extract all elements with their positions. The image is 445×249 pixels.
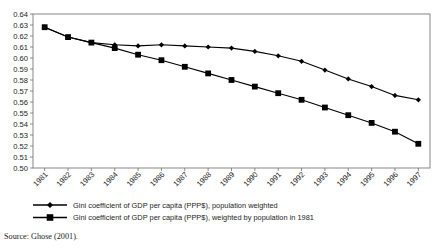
- y-axis-tick-label: 0.56: [13, 98, 28, 107]
- data-point-marker-square: [205, 71, 211, 77]
- x-axis-tick-label: 1985: [125, 170, 143, 188]
- x-axis-tick-label: 1992: [288, 170, 306, 188]
- x-axis-tick-label: 1989: [218, 170, 236, 188]
- x-axis-tick-label: 1995: [358, 170, 376, 188]
- data-point-marker-square: [42, 24, 48, 30]
- y-axis-tick-label: 0.53: [13, 131, 28, 140]
- x-axis-tick-label: 1986: [148, 170, 166, 188]
- data-point-marker-square: [159, 57, 165, 63]
- data-point-marker-square: [322, 105, 328, 111]
- x-axis-tick-label: 1987: [171, 170, 189, 188]
- x-axis-tick-label: 1990: [241, 170, 259, 188]
- data-point-marker-square: [275, 90, 281, 96]
- y-axis-tick-label: 0.64: [13, 10, 28, 19]
- x-axis-tick-label: 1991: [265, 170, 283, 188]
- data-point-marker-square: [252, 84, 258, 90]
- data-point-marker-square: [345, 112, 351, 118]
- y-axis-tick-label: 0.60: [13, 54, 28, 63]
- data-point-marker-square: [88, 40, 94, 46]
- data-point-marker-square: [182, 64, 188, 70]
- data-point-marker-square: [135, 52, 141, 58]
- data-point-marker-square: [112, 45, 118, 51]
- y-axis-tick-label: 0.50: [13, 164, 28, 173]
- legend-marker-square: [47, 214, 54, 221]
- y-axis-tick-label: 0.52: [13, 142, 28, 151]
- x-axis-tick-label: 1997: [405, 170, 423, 188]
- legend-label: Gini coefficient of GDP per capita (PPP$…: [73, 213, 314, 222]
- data-point-marker-square: [369, 120, 375, 126]
- legend-marker-diamond: [47, 202, 53, 208]
- legend-item-2: Gini coefficient of GDP per capita (PPP$…: [33, 213, 314, 222]
- x-axis-tick-label: 1988: [195, 170, 213, 188]
- y-axis-tick-label: 0.51: [13, 153, 28, 162]
- y-axis-tick-label: 0.62: [13, 32, 28, 41]
- legend-label: Gini coefficient of GDP per capita (PPP$…: [73, 201, 278, 210]
- source-note: Source: Ghose (2001).: [4, 232, 78, 241]
- y-axis-tick-label: 0.55: [13, 109, 28, 118]
- plot-area-border: [33, 14, 430, 168]
- data-point-marker-square: [65, 34, 71, 40]
- figure-container: 0.640.630.620.610.600.590.580.570.560.55…: [0, 0, 445, 249]
- gini-line-chart: 0.640.630.620.610.600.590.580.570.560.55…: [0, 0, 445, 249]
- data-point-marker-square: [392, 129, 398, 135]
- x-axis-tick-label: 1996: [382, 170, 400, 188]
- data-point-marker-square: [415, 141, 421, 147]
- x-axis-tick-label: 1983: [78, 170, 96, 188]
- x-axis-tick-label: 1994: [335, 170, 353, 188]
- data-point-marker-square: [229, 77, 235, 83]
- y-axis-tick-label: 0.59: [13, 65, 28, 74]
- y-axis-tick-label: 0.61: [13, 43, 28, 52]
- y-axis-tick-label: 0.57: [13, 87, 28, 96]
- y-axis-tick-label: 0.54: [13, 120, 28, 129]
- data-point-marker-square: [299, 97, 305, 103]
- x-axis-tick-label: 1982: [55, 170, 73, 188]
- x-axis-tick-label: 1993: [312, 170, 330, 188]
- y-axis-tick-label: 0.58: [13, 76, 28, 85]
- x-axis-tick-label: 1984: [101, 170, 119, 188]
- x-axis-tick-label: 1981: [31, 170, 49, 188]
- legend-item-1: Gini coefficient of GDP per capita (PPP$…: [33, 201, 278, 210]
- y-axis-tick-label: 0.63: [13, 21, 28, 30]
